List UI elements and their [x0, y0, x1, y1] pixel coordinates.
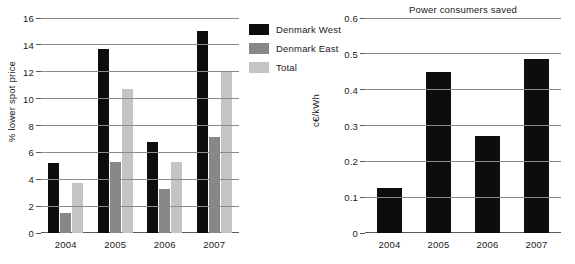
bar — [197, 31, 208, 233]
y-tick-mark — [36, 18, 41, 19]
x-tick-label: 2004 — [379, 239, 401, 250]
y-tick-mark — [36, 233, 41, 234]
x-tick-label: 2005 — [104, 239, 126, 250]
legend-item-total: Total — [249, 58, 341, 77]
left-chart-y-axis-label: % lower spot price — [6, 47, 17, 157]
y-tick-label: 16 — [23, 13, 34, 24]
bar — [426, 72, 451, 233]
y-tick-mark — [36, 125, 41, 126]
y-tick-mark — [36, 206, 41, 207]
x-tick-label: 2006 — [154, 239, 176, 250]
bar — [377, 188, 402, 233]
y-tick-label: 0.5 — [344, 48, 358, 59]
y-tick-mark — [36, 44, 41, 45]
y-tick-label: 2 — [29, 201, 34, 212]
y-tick-mark — [36, 179, 41, 180]
left-chart-plot-area: 02468101214162004200520062007 — [41, 18, 239, 233]
legend-label-total: Total — [276, 62, 297, 73]
y-tick-mark — [36, 152, 41, 153]
gridline — [365, 161, 561, 162]
y-tick-label: 0.6 — [344, 13, 358, 24]
gridline — [365, 53, 561, 54]
y-tick-label: 0.3 — [344, 120, 358, 131]
gridline — [365, 18, 561, 19]
y-tick-mark — [36, 71, 41, 72]
y-tick-label: 8 — [29, 120, 34, 131]
power-consumers-saved-panel: c€/kWh Power consumers saved 00.10.20.30… — [330, 0, 575, 264]
legend-swatch-denmark-east — [249, 43, 269, 54]
legend: Denmark West Denmark East Total — [249, 20, 341, 77]
bar — [48, 163, 59, 233]
y-tick-label: 0.2 — [344, 156, 358, 167]
x-tick-label: 2006 — [477, 239, 499, 250]
gridline — [41, 152, 239, 153]
bar — [147, 142, 158, 233]
y-tick-mark — [360, 197, 365, 198]
gridline — [41, 125, 239, 126]
bar — [171, 162, 182, 233]
gridline — [365, 89, 561, 90]
x-tick-label: 2005 — [428, 239, 450, 250]
spot-price-panel: % lower spot price 024681012141620042005… — [0, 0, 330, 264]
gridline — [41, 44, 239, 45]
x-tick-label: 2007 — [526, 239, 548, 250]
y-tick-label: 6 — [29, 147, 34, 158]
bar — [122, 89, 133, 233]
bar — [110, 162, 121, 233]
gridline — [41, 206, 239, 207]
y-tick-mark — [36, 98, 41, 99]
y-tick-label: 14 — [23, 39, 34, 50]
legend-item-denmark-west: Denmark West — [249, 20, 341, 39]
legend-swatch-total — [249, 62, 269, 73]
y-tick-mark — [360, 18, 365, 19]
bar — [524, 59, 549, 233]
y-tick-mark — [360, 233, 365, 234]
y-tick-label: 12 — [23, 66, 34, 77]
y-tick-label: 0.1 — [344, 192, 358, 203]
gridline — [365, 125, 561, 126]
bar — [72, 183, 83, 233]
y-tick-mark — [360, 53, 365, 54]
figure-container: % lower spot price 024681012141620042005… — [0, 0, 575, 264]
y-tick-label: 0 — [29, 228, 34, 239]
y-tick-label: 0 — [353, 228, 358, 239]
bar — [475, 136, 500, 233]
x-tick-label: 2007 — [203, 239, 225, 250]
gridline — [41, 71, 239, 72]
right-chart-y-axis-label: c€/kWh — [310, 66, 321, 156]
bar — [159, 189, 170, 233]
y-tick-mark — [360, 161, 365, 162]
right-chart-plot-area: Power consumers saved 00.10.20.30.40.50.… — [365, 18, 561, 233]
legend-swatch-denmark-west — [249, 24, 269, 35]
gridline — [41, 179, 239, 180]
x-tick-label: 2004 — [55, 239, 77, 250]
gridline — [41, 98, 239, 99]
gridline — [365, 197, 561, 198]
bar — [60, 213, 71, 233]
y-tick-label: 10 — [23, 93, 34, 104]
y-tick-mark — [360, 89, 365, 90]
y-tick-label: 0.4 — [344, 84, 358, 95]
gridline — [41, 18, 239, 19]
y-tick-label: 4 — [29, 174, 34, 185]
y-tick-mark — [360, 125, 365, 126]
legend-item-denmark-east: Denmark East — [249, 39, 341, 58]
right-chart-title: Power consumers saved — [365, 4, 561, 15]
